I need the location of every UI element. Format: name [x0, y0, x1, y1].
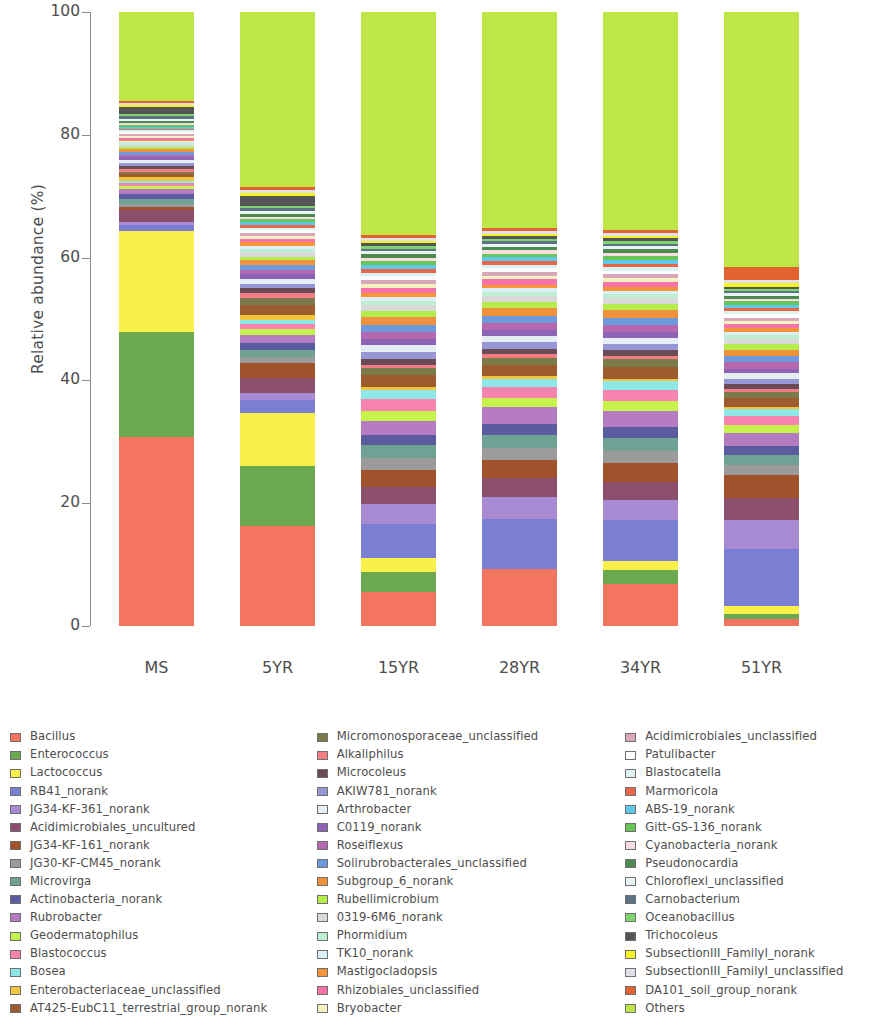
legend-column-1: BacillusEnterococcusLactococcusRB41_nora… [0, 726, 309, 1027]
legend-item[interactable]: Enterobacteriaceae_unclassified [10, 981, 309, 999]
legend-label: Enterobacteriaceae_unclassified [30, 985, 221, 997]
legend-item[interactable]: Bryobacter [317, 999, 616, 1017]
bar-segment [482, 365, 557, 377]
y-tick-label: 100 [10, 2, 80, 20]
legend-item[interactable]: Lactococcus [10, 764, 309, 782]
legend-label: Pseudonocardia [645, 858, 738, 870]
legend-item[interactable]: DA101_soil_group_norank [625, 981, 871, 999]
legend-item[interactable]: AT425-EubC11_terrestrial_group_norank [10, 999, 309, 1017]
y-tick-0: 0 [0, 626, 90, 627]
legend-item[interactable]: Acidimicrobiales_unclassified [625, 728, 871, 746]
legend-swatch-icon [317, 733, 328, 742]
bar-segment [724, 475, 799, 498]
legend-item[interactable]: Bosea [10, 963, 309, 981]
legend-label: Microcoleus [337, 767, 407, 779]
legend-item[interactable]: Rubrobacter [10, 909, 309, 927]
bar-5YR[interactable] [240, 12, 315, 626]
bar-segment [119, 210, 194, 222]
x-tick-label-5YR: 5YR [218, 658, 338, 677]
legend-item[interactable]: TK10_norank [317, 945, 616, 963]
bar-segment [361, 487, 436, 504]
legend-item[interactable]: Arthrobacter [317, 800, 616, 818]
stacked-bar-chart: Relative abundance (%) 020406080100 MS5Y… [0, 0, 871, 718]
legend-label: Rubrobacter [30, 912, 102, 924]
legend-swatch-icon [317, 805, 328, 814]
bar-segment [361, 558, 436, 573]
legend-item[interactable]: Carnobacterium [625, 891, 871, 909]
legend-item[interactable]: Geodermatophilus [10, 927, 309, 945]
bar-segment [361, 12, 436, 234]
legend-item[interactable]: Blastocatella [625, 764, 871, 782]
bar-segment [724, 619, 799, 626]
legend-item[interactable]: Rhizobiales_unclassified [317, 981, 616, 999]
bar-segment [482, 308, 557, 316]
legend-item[interactable]: Patulibacter [625, 746, 871, 764]
legend-item[interactable]: ABS-19_norank [625, 800, 871, 818]
legend-item[interactable]: Trichocoleus [625, 927, 871, 945]
legend-swatch-icon [625, 751, 636, 760]
legend-item[interactable]: Subgroup_6_norank [317, 873, 616, 891]
y-tick-label: 0 [10, 616, 80, 634]
legend-item[interactable]: Acidimicrobiales_uncultured [10, 818, 309, 836]
legend-item[interactable]: Micromonosporaceae_unclassified [317, 728, 616, 746]
bar-MS[interactable] [119, 12, 194, 626]
bar-15YR[interactable] [361, 12, 436, 626]
bar-34YR[interactable] [603, 12, 678, 626]
bar-stack [119, 12, 194, 626]
legend-item[interactable]: SubsectionIII_FamilyI_norank [625, 945, 871, 963]
legend-label: Marmoricola [645, 786, 718, 798]
bar-segment [724, 416, 799, 425]
legend-item[interactable]: 0319-6M6_norank [317, 909, 616, 927]
legend-item[interactable]: Oceanobacillus [625, 909, 871, 927]
legend-item[interactable]: Mastigocladopsis [317, 963, 616, 981]
legend-item[interactable]: Microcoleus [317, 764, 616, 782]
legend-item[interactable]: Marmoricola [625, 782, 871, 800]
legend-swatch-icon [625, 913, 636, 922]
legend-swatch-icon [10, 1004, 21, 1013]
legend-item[interactable]: C0119_norank [317, 818, 616, 836]
bar-segment [482, 398, 557, 408]
legend-item[interactable]: Solirubrobacterales_unclassified [317, 855, 616, 873]
legend-label: Arthrobacter [337, 804, 412, 816]
legend-item[interactable]: JG34-KF-161_norank [10, 837, 309, 855]
bar-segment [603, 12, 678, 230]
legend-item[interactable]: Alkaliphilus [317, 746, 616, 764]
legend-label: Micromonosporaceae_unclassified [337, 731, 539, 743]
bar-28YR[interactable] [482, 12, 557, 626]
legend-item[interactable]: Chloroflexi_unclassified [625, 873, 871, 891]
bar-stack [482, 12, 557, 626]
legend-item[interactable]: Microvirga [10, 873, 309, 891]
legend-item[interactable]: Cyanobacteria_norank [625, 837, 871, 855]
legend-item[interactable]: AKIW781_norank [317, 782, 616, 800]
legend-label: Patulibacter [645, 749, 715, 761]
legend-item[interactable]: Enterococcus [10, 746, 309, 764]
legend-item[interactable]: Gitt-GS-136_norank [625, 818, 871, 836]
legend-swatch-icon [625, 769, 636, 778]
legend-item[interactable]: RB41_norank [10, 782, 309, 800]
legend-item[interactable]: Others [625, 999, 871, 1017]
legend-swatch-icon [10, 986, 21, 995]
bar-51YR[interactable] [724, 12, 799, 626]
legend-item[interactable]: SubsectionIII_FamilyI_unclassified [625, 963, 871, 981]
legend-item[interactable]: Actinobacteria_norank [10, 891, 309, 909]
legend-label: C0119_norank [337, 822, 422, 834]
bar-segment [482, 12, 557, 227]
legend-item[interactable]: Roseiflexus [317, 837, 616, 855]
legend-item[interactable]: Bacillus [10, 728, 309, 746]
legend-item[interactable]: Pseudonocardia [625, 855, 871, 873]
bar-segment [240, 400, 315, 413]
legend-item[interactable]: JG30-KF-CM45_norank [10, 855, 309, 873]
legend-label: Mastigocladopsis [337, 966, 438, 978]
bar-segment [240, 350, 315, 357]
bar-segment [361, 504, 436, 524]
bar-segment [724, 520, 799, 549]
legend-item[interactable]: Rubellimicrobium [317, 891, 616, 909]
legend-item[interactable]: Blastococcus [10, 945, 309, 963]
legend-item[interactable]: Phormidium [317, 927, 616, 945]
legend-swatch-icon [317, 823, 328, 832]
bar-segment [482, 435, 557, 448]
legend-label: RB41_norank [30, 786, 108, 798]
legend-item[interactable]: JG34-KF-361_norank [10, 800, 309, 818]
legend-swatch-icon [317, 787, 328, 796]
legend-label: Microvirga [30, 876, 91, 888]
